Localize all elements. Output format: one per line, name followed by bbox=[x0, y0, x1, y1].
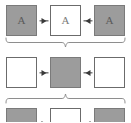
cell-row2-col2[interactable] bbox=[50, 57, 81, 88]
cell-row3-col1[interactable] bbox=[6, 108, 37, 122]
cell-label: A bbox=[18, 15, 26, 26]
arrow-head bbox=[41, 18, 46, 24]
diagram-row-2 bbox=[0, 57, 131, 88]
cell-row3-col3[interactable] bbox=[94, 108, 125, 122]
brace-up-icon bbox=[5, 92, 126, 104]
arrow-head bbox=[41, 121, 46, 123]
arrow-head bbox=[85, 121, 90, 123]
state-transition-diagram: A A A bbox=[0, 0, 131, 122]
cell-row2-col1[interactable] bbox=[6, 57, 37, 88]
arrow-row1-2-left-icon bbox=[81, 15, 94, 27]
arrow-row2-2-left-icon bbox=[81, 67, 94, 79]
cell-row1-col2[interactable]: A bbox=[50, 5, 81, 36]
cell-label: A bbox=[62, 15, 70, 26]
arrow-row3-1-right-icon bbox=[37, 118, 50, 123]
diagram-row-1: A A A bbox=[0, 5, 131, 36]
cell-row3-col2[interactable] bbox=[50, 108, 81, 122]
arrow-head bbox=[85, 70, 90, 76]
cell-row1-col3[interactable]: A bbox=[94, 5, 125, 36]
arrow-head bbox=[41, 70, 46, 76]
brace-down-icon bbox=[5, 37, 126, 49]
cell-row1-col1[interactable]: A bbox=[6, 5, 37, 36]
cell-row2-col3[interactable] bbox=[94, 57, 125, 88]
arrow-row2-1-right-icon bbox=[37, 67, 50, 79]
arrow-row1-1-right-icon bbox=[37, 15, 50, 27]
arrow-head bbox=[85, 18, 90, 24]
cell-label: A bbox=[106, 15, 114, 26]
arrow-row3-2-left-icon bbox=[81, 118, 94, 123]
diagram-row-3 bbox=[0, 108, 131, 122]
